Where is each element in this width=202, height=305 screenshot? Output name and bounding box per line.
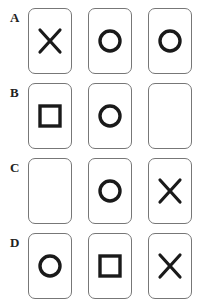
card-circle: [88, 158, 132, 224]
card-circle: [88, 8, 132, 74]
card-cross: [148, 233, 192, 299]
card-circle: [148, 8, 192, 74]
cross-symbol-icon: [149, 159, 191, 223]
circle-symbol-icon: [89, 159, 131, 223]
option-label: D: [10, 235, 19, 251]
card-circle: [28, 233, 72, 299]
circle-symbol-icon: [89, 84, 131, 148]
square-shape: [40, 106, 60, 126]
card-cross: [28, 8, 72, 74]
card-square: [28, 83, 72, 149]
cross-symbol-icon: [29, 9, 71, 73]
option-row-a[interactable]: A: [0, 8, 202, 76]
empty-card-face: [149, 84, 191, 148]
option-row-b[interactable]: B: [0, 83, 202, 151]
circle-shape: [40, 256, 60, 276]
option-label: A: [10, 10, 19, 26]
circle-shape: [160, 31, 180, 51]
card-cross: [148, 158, 192, 224]
circle-shape: [100, 31, 120, 51]
circle-shape: [100, 106, 120, 126]
card-square: [88, 233, 132, 299]
circle-shape: [100, 181, 120, 201]
square-shape: [100, 256, 120, 276]
square-symbol-icon: [89, 234, 131, 298]
circle-symbol-icon: [149, 9, 191, 73]
square-symbol-icon: [29, 84, 71, 148]
option-label: B: [10, 85, 19, 101]
option-label: C: [10, 160, 19, 176]
cross-symbol-icon: [149, 234, 191, 298]
card-empty: [28, 158, 72, 224]
circle-symbol-icon: [89, 9, 131, 73]
option-row-d[interactable]: D: [0, 233, 202, 301]
option-row-c[interactable]: C: [0, 158, 202, 226]
circle-symbol-icon: [29, 234, 71, 298]
card-empty: [148, 83, 192, 149]
card-circle: [88, 83, 132, 149]
empty-card-face: [29, 159, 71, 223]
